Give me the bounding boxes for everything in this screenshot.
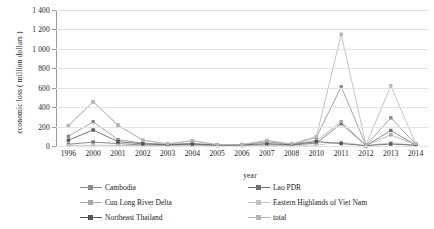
y-tick-mark <box>52 88 56 89</box>
data-point-marker <box>414 142 417 145</box>
data-point-marker <box>389 116 392 119</box>
y-tick-mark <box>52 146 56 147</box>
legend-item[interactable]: Cambodia <box>80 183 248 192</box>
x-tick-label: 1996 <box>61 149 76 158</box>
chart-legend: CambodiaLao PDRCuu Long River DeltaEaste… <box>80 180 380 225</box>
data-point-marker <box>141 138 144 141</box>
y-tick-label: 800 <box>38 64 50 73</box>
x-tick-label: 2001 <box>110 149 125 158</box>
x-tick-label: 2008 <box>284 149 299 158</box>
data-point-marker <box>92 140 95 143</box>
x-tick-label: 2000 <box>85 149 100 158</box>
gridline <box>56 88 428 89</box>
series-line <box>68 34 415 145</box>
y-tick-label: 1 000 <box>32 44 50 53</box>
gridline <box>56 107 428 108</box>
legend-swatch-icon <box>80 214 102 221</box>
gridline <box>56 49 428 50</box>
gridline <box>56 68 428 69</box>
data-point-marker <box>67 135 70 138</box>
y-tick-label: 200 <box>38 122 50 131</box>
gridline <box>56 127 428 128</box>
x-tick-label: 2012 <box>358 149 373 158</box>
y-tick-mark <box>52 29 56 30</box>
data-point-marker <box>191 139 194 142</box>
data-point-marker <box>389 129 392 132</box>
data-point-marker <box>92 100 95 103</box>
data-point-marker <box>92 120 95 123</box>
series-line <box>68 87 415 145</box>
data-point-marker <box>315 135 318 138</box>
y-tick-mark <box>52 107 56 108</box>
y-tick-mark <box>52 49 56 50</box>
y-tick-mark <box>52 127 56 128</box>
x-axis-title: year <box>243 171 257 180</box>
data-point-marker <box>389 133 392 136</box>
x-tick-label: 2002 <box>135 149 150 158</box>
x-tick-label: 2010 <box>309 149 324 158</box>
x-tick-label: 2003 <box>160 149 175 158</box>
x-tick-label: 2013 <box>383 149 398 158</box>
data-point-marker <box>340 33 343 36</box>
economic-loss-line-chart: economic loss ( million dollars ) 020040… <box>0 0 434 229</box>
y-tick-label: 600 <box>38 83 50 92</box>
legend-item[interactable]: Eastern Highlands of Viet Nam <box>248 198 380 207</box>
data-point-marker <box>265 142 268 145</box>
data-point-marker <box>315 140 318 143</box>
x-tick-label: 2011 <box>334 149 349 158</box>
legend-item[interactable]: Cuu Long River Delta <box>80 198 248 207</box>
legend-label: total <box>273 213 286 222</box>
x-tick-label: 2006 <box>234 149 249 158</box>
y-axis-tick-labels: 02004006008001 0001 2001 400 <box>0 0 50 229</box>
legend-swatch-icon <box>248 214 270 221</box>
legend-label: Lao PDR <box>273 183 301 192</box>
legend-label: Northeast Thailand <box>105 213 163 222</box>
data-point-marker <box>340 142 343 145</box>
y-tick-mark <box>52 10 56 11</box>
y-tick-mark <box>52 68 56 69</box>
data-point-marker <box>340 120 343 123</box>
y-tick-label: 1 400 <box>32 6 50 15</box>
x-tick-label: 2014 <box>408 149 423 158</box>
legend-label: Cuu Long River Delta <box>105 198 172 207</box>
legend-item[interactable]: Lao PDR <box>248 183 380 192</box>
legend-item[interactable]: total <box>248 213 380 222</box>
data-point-marker <box>265 139 268 142</box>
y-tick-label: 1 200 <box>32 25 50 34</box>
data-point-marker <box>92 128 95 131</box>
legend-label: Eastern Highlands of Viet Nam <box>273 198 367 207</box>
x-tick-label: 2004 <box>185 149 200 158</box>
legend-swatch-icon <box>80 184 102 191</box>
gridline <box>56 29 428 30</box>
legend-label: Cambodia <box>105 183 136 192</box>
y-tick-label: 400 <box>38 103 50 112</box>
legend-swatch-icon <box>80 199 102 206</box>
x-tick-label: 2005 <box>209 149 224 158</box>
data-point-marker <box>67 138 70 141</box>
gridline <box>56 146 428 147</box>
legend-swatch-icon <box>248 199 270 206</box>
data-point-marker <box>116 140 119 143</box>
x-tick-label: 2007 <box>259 149 274 158</box>
legend-swatch-icon <box>248 184 270 191</box>
legend-item[interactable]: Northeast Thailand <box>80 213 248 222</box>
plot-area <box>56 10 428 146</box>
gridline <box>56 10 428 11</box>
y-tick-label: 0 <box>46 142 50 151</box>
